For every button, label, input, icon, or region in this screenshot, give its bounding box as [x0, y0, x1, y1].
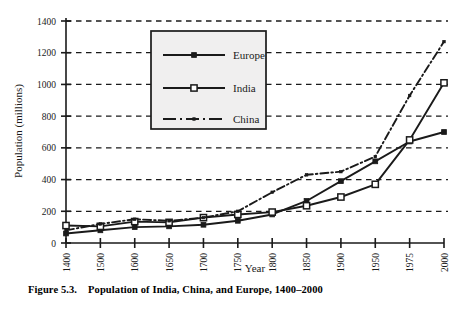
data-point-marker: [235, 218, 240, 223]
data-point-marker: [202, 216, 205, 219]
x-tick-label: 1950: [371, 253, 381, 272]
x-tick-label: 2000: [440, 253, 450, 272]
y-tick-label: 800: [42, 112, 57, 122]
y-tick-label: 400: [42, 175, 57, 185]
x-tick-label: 1500: [96, 253, 106, 272]
figure-caption: Figure 5.3.Population of India, China, a…: [0, 284, 458, 295]
x-tick-label: 1975: [405, 253, 415, 272]
data-point-marker: [168, 220, 171, 223]
caption-number: Figure 5.3.: [0, 284, 77, 295]
legend: EuropeIndiaChina: [151, 31, 266, 129]
data-point-marker: [237, 210, 240, 213]
data-point-marker: [99, 223, 102, 226]
x-tick-label: 1750: [233, 253, 243, 272]
data-point-marker: [372, 181, 378, 187]
y-axis-title: Population (millions): [12, 84, 25, 178]
data-point-marker: [305, 174, 308, 177]
data-point-marker: [269, 209, 275, 215]
data-point-marker: [303, 203, 309, 209]
x-tick-label: 1900: [336, 253, 346, 272]
data-point-marker: [201, 222, 206, 227]
x-tick-label: 1600: [130, 253, 140, 272]
caption-text: Population of India, China, and Europe, …: [77, 284, 323, 295]
data-point-marker: [192, 53, 197, 58]
data-point-marker: [193, 118, 196, 121]
data-point-marker: [442, 130, 447, 135]
x-tick-label: 1850: [302, 253, 312, 272]
y-tick-label: 0: [51, 239, 56, 249]
data-point-marker: [63, 222, 69, 228]
data-point-marker: [271, 191, 274, 194]
y-tick-label: 1000: [37, 80, 56, 90]
data-point-marker: [407, 137, 413, 143]
data-point-marker: [133, 218, 136, 221]
chart-plot-area: 0200400600800100012001400 14001500160016…: [0, 0, 458, 275]
data-point-marker: [339, 179, 344, 184]
data-point-marker: [340, 170, 343, 173]
data-point-marker: [132, 225, 137, 230]
y-tick-label: 1200: [37, 48, 56, 58]
data-point-marker: [374, 155, 377, 158]
legend-label-europe: Europe: [233, 49, 265, 61]
x-tick-label: 1650: [165, 253, 175, 272]
x-tick-label: 1800: [268, 253, 278, 272]
figure-container: 0200400600800100012001400 14001500160016…: [0, 0, 458, 309]
data-point-marker: [441, 80, 447, 86]
data-point-marker: [373, 159, 378, 164]
y-tick-label: 200: [42, 207, 57, 217]
data-point-marker: [191, 85, 197, 91]
population-line-chart: 0200400600800100012001400 14001500160016…: [0, 0, 458, 275]
y-tick-label: 1400: [37, 17, 56, 27]
data-point-marker: [408, 94, 411, 97]
legend-label-india: India: [233, 82, 256, 94]
x-tick-label: 1400: [62, 253, 72, 272]
x-axis-title: Year: [245, 262, 266, 274]
x-tick-label: 1700: [199, 253, 209, 272]
y-tick-label: 600: [42, 143, 57, 153]
data-point-marker: [338, 194, 344, 200]
data-point-marker: [65, 229, 68, 232]
series-europe: [64, 130, 447, 236]
legend-label-china: China: [233, 113, 259, 125]
data-point-marker: [443, 40, 446, 43]
